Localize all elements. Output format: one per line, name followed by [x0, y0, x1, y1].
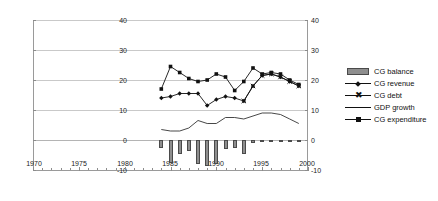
gridline-20	[34, 80, 307, 81]
xtick-1987	[189, 168, 190, 170]
legend-item-cg-debt[interactable]: ✖ CG debt	[345, 90, 437, 101]
ytick-right-30	[305, 50, 308, 51]
ytick-left-0	[33, 140, 36, 141]
xtick-1981	[134, 168, 135, 170]
xtick-1970	[33, 167, 34, 171]
xtick-1983	[152, 168, 153, 170]
ylabel-right-30: 30	[311, 47, 319, 54]
bar-cg-balance-1992	[233, 140, 237, 148]
xtick-1976	[88, 168, 89, 170]
xtick-1977	[97, 168, 98, 170]
legend-label-cg-revenue: CG revenue	[374, 79, 414, 88]
bar-cg-balance-1984	[159, 140, 163, 148]
gridline-30	[34, 50, 307, 51]
xtick-1992	[235, 168, 236, 170]
ytick-left-40	[33, 20, 36, 21]
bar-cg-balance-1994	[251, 140, 255, 143]
xtick-1994	[253, 168, 254, 170]
xlabel-1995: 1995	[253, 160, 269, 167]
ylabel-left-0: 0	[123, 137, 127, 144]
legend-key-line-plain	[345, 102, 371, 113]
ylabel-left-40: 40	[119, 17, 127, 24]
xtick-1993	[244, 168, 245, 170]
xtick-1971	[42, 168, 43, 170]
xtick-1998	[290, 168, 291, 170]
bar-cg-balance-1996	[269, 140, 273, 142]
bar-cg-balance-1991	[224, 140, 228, 149]
xtick-1985	[171, 167, 172, 171]
legend-label-cg-expenditure: CG expenditure	[374, 115, 427, 124]
ylabel-left-30: 30	[119, 47, 127, 54]
xtick-1972	[51, 168, 52, 170]
chart-root: 40 30 20 10 0 -10 40 30 20 10 0 -10 1970…	[0, 0, 438, 201]
ylabel-left-20: 20	[119, 77, 127, 84]
xtick-1980	[125, 167, 126, 171]
xtick-1979	[116, 168, 117, 170]
xtick-1975	[79, 167, 80, 171]
legend-label-gdp-growth: GDP growth	[374, 103, 415, 112]
ytick-left-20	[33, 80, 36, 81]
xtick-1982	[143, 168, 144, 170]
bar-cg-balance-1998	[288, 140, 292, 142]
xlabel-1975: 1975	[71, 160, 87, 167]
bar-cg-balance-1988	[196, 140, 200, 164]
bar-cg-balance-1997	[279, 140, 283, 142]
bar-cg-balance-1986	[178, 140, 182, 154]
xtick-1986	[180, 168, 181, 170]
legend-item-cg-balance[interactable]: CG balance	[345, 66, 437, 77]
ytick-right-0	[305, 140, 308, 141]
bar-cg-balance-1985	[169, 140, 173, 163]
legend-item-gdp-growth[interactable]: GDP growth	[345, 102, 437, 113]
xtick-1996	[271, 168, 272, 170]
ylabel-right-10: 10	[311, 107, 319, 114]
xlabel-1970: 1970	[26, 160, 42, 167]
xlabel-2000: 2000	[299, 160, 315, 167]
ylabel-right-40: 40	[311, 17, 319, 24]
gridline-40	[34, 20, 307, 21]
bar-cg-balance-1995	[260, 140, 264, 142]
xtick-1984	[161, 168, 162, 170]
legend-key-line-diamond	[345, 78, 371, 89]
bar-cg-balance-1987	[187, 140, 191, 151]
bar-cg-balance-1999	[297, 140, 301, 142]
xtick-1995	[262, 167, 263, 171]
legend-key-bar-swatch	[345, 66, 371, 77]
ylabel-right-20: 20	[311, 77, 319, 84]
ylabel-right-neg10: -10	[311, 167, 321, 174]
bar-cg-balance-1993	[242, 140, 246, 154]
xlabel-1980: 1980	[117, 160, 133, 167]
legend-key-line-cross: ✖	[345, 90, 371, 101]
legend-key-line-square	[345, 114, 371, 125]
xtick-1990	[216, 167, 217, 171]
bar-cg-balance-1990	[214, 140, 218, 164]
xtick-1988	[198, 168, 199, 170]
xtick-1978	[106, 168, 107, 170]
gridline-10	[34, 110, 307, 111]
ytick-right-20	[305, 80, 308, 81]
ylabel-left-10: 10	[119, 107, 127, 114]
ytick-right-40	[305, 20, 308, 21]
xtick-1974	[70, 168, 71, 170]
legend: CG balance CG revenue ✖ CG debt GDP grow…	[345, 66, 437, 126]
ytick-right-10	[305, 110, 308, 111]
ylabel-right-0: 0	[311, 137, 315, 144]
xtick-1989	[207, 168, 208, 170]
ytick-left-30	[33, 50, 36, 51]
xtick-1997	[281, 168, 282, 170]
legend-item-cg-expenditure[interactable]: CG expenditure	[345, 114, 437, 125]
xtick-2000	[308, 167, 309, 171]
legend-item-cg-revenue[interactable]: CG revenue	[345, 78, 437, 89]
xtick-1991	[226, 168, 227, 170]
ytick-left-10	[33, 110, 36, 111]
legend-label-cg-balance: CG balance	[374, 67, 414, 76]
xtick-1999	[299, 168, 300, 170]
bar-cg-balance-1989	[205, 140, 209, 166]
xtick-1973	[61, 168, 62, 170]
legend-label-cg-debt: CG debt	[374, 91, 402, 100]
